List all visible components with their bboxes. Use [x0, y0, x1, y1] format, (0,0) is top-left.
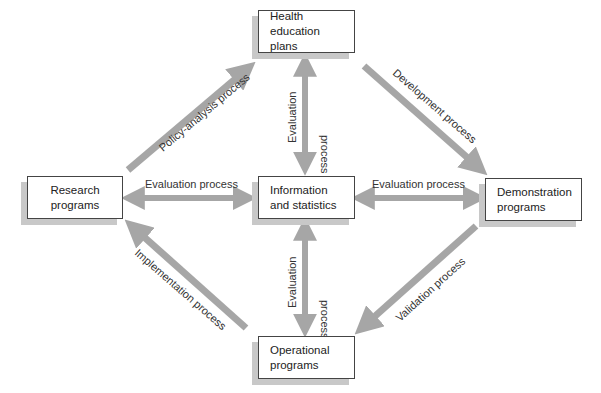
- node-information-and-statistics: Information and statistics: [258, 176, 355, 219]
- evaluation-right-arrow: Evaluation process: [364, 178, 476, 198]
- evaluation-left-arrow: Evaluation process: [134, 178, 246, 198]
- node-label-line1: Information: [270, 183, 354, 198]
- health-education-diagram: Policy-analysis process Development proc…: [0, 0, 601, 393]
- node-label-line2: and statistics: [270, 198, 354, 213]
- node-label-line2: programs: [497, 200, 581, 215]
- node-label-line1: Research: [50, 183, 99, 198]
- evaluation-top-label-2: process: [319, 135, 331, 174]
- evaluation-bottom-label-2: process: [319, 300, 331, 339]
- node-label-line1: Health education: [270, 9, 354, 39]
- node-label-line2: programs: [51, 198, 100, 213]
- node-label-line1: Demonstration: [497, 185, 581, 200]
- node-label-line2: plans: [270, 39, 354, 54]
- evaluation-bottom-arrow: Evaluation process: [286, 230, 331, 339]
- node-health-education-plans: Health education plans: [258, 10, 355, 53]
- policy-analysis-label: Policy-analysis process: [157, 71, 253, 154]
- node-research-programs: Research programs: [27, 176, 123, 219]
- node-label-line1: Operational: [270, 343, 354, 358]
- evaluation-top-label-1: Evaluation: [286, 92, 298, 143]
- evaluation-left-label: Evaluation process: [145, 178, 238, 190]
- evaluation-bottom-label-1: Evaluation: [286, 257, 298, 308]
- validation-arrow: Validation process: [364, 226, 476, 326]
- node-operational-programs: Operational programs: [258, 336, 355, 379]
- implementation-label: Implementation process: [133, 246, 229, 332]
- node-demonstration-programs: Demonstration programs: [485, 178, 582, 221]
- policy-analysis-arrow: Policy-analysis process: [128, 70, 252, 170]
- evaluation-top-arrow: Evaluation process: [286, 66, 331, 174]
- implementation-arrow: Implementation process: [133, 228, 246, 332]
- evaluation-right-label: Evaluation process: [372, 178, 465, 190]
- node-label-line2: programs: [270, 358, 354, 373]
- development-arrow: Development process: [364, 66, 479, 167]
